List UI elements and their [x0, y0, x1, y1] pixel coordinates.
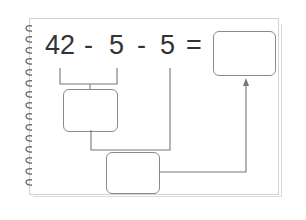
arrow-up-icon — [243, 78, 249, 86]
connector-lines — [0, 0, 306, 220]
